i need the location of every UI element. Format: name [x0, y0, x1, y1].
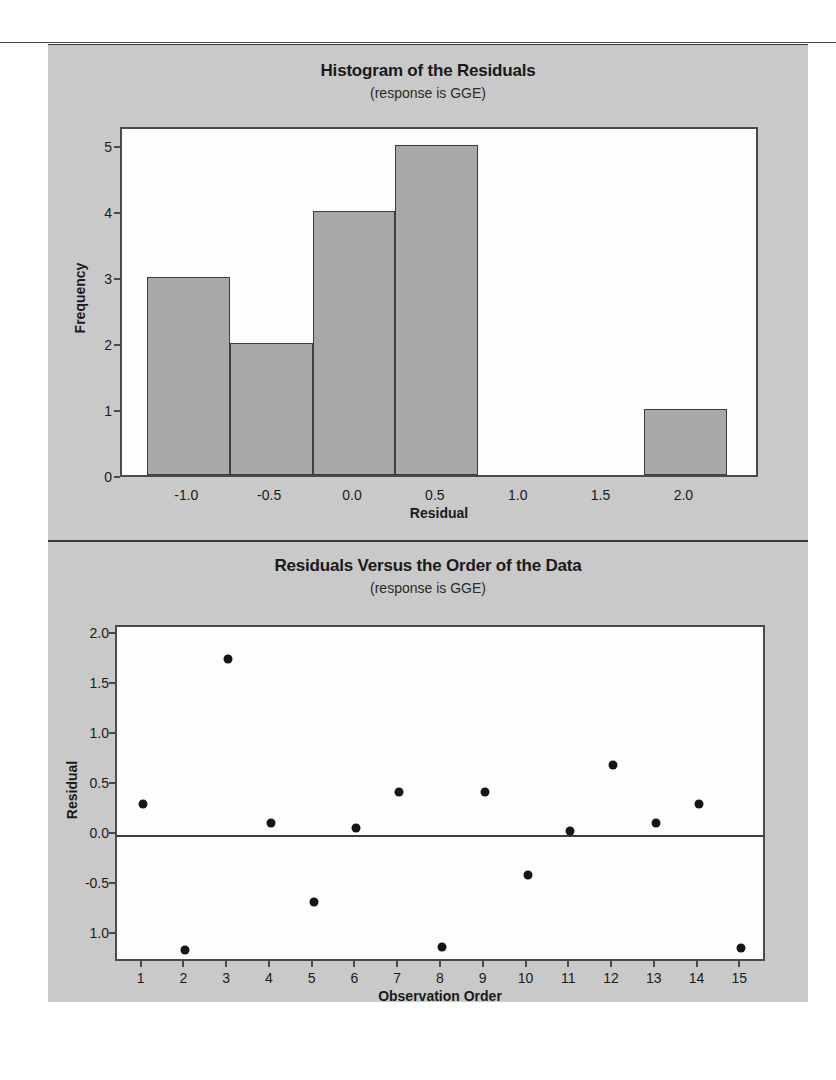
histogram-bar	[313, 211, 396, 475]
scatter-y-tick-mark	[109, 782, 115, 784]
histogram-y-tick-mark	[114, 146, 120, 148]
scatter-data-point	[694, 800, 703, 809]
scatter-x-tick-mark	[653, 961, 655, 967]
histogram-y-tick-mark	[114, 410, 120, 412]
histogram-bar	[395, 145, 478, 475]
scatter-y-tick-label: 1.0	[69, 725, 109, 741]
scatter-title: Residuals Versus the Order of the Data	[48, 556, 808, 576]
scatter-data-point	[480, 788, 489, 797]
scatter-panel: Residuals Versus the Order of the Data (…	[48, 540, 808, 1002]
scatter-x-tick-mark	[225, 961, 227, 967]
scatter-x-tick-mark	[182, 961, 184, 967]
scatter-data-point	[309, 898, 318, 907]
histogram-x-tick-label: -1.0	[174, 487, 198, 503]
scatter-x-tick-label: 4	[265, 970, 273, 986]
histogram-y-tick-mark	[114, 278, 120, 280]
scatter-data-point	[138, 800, 147, 809]
histogram-y-tick-label: 5	[86, 139, 112, 155]
scatter-x-tick-label: 12	[603, 970, 619, 986]
scatter-x-tick-mark	[567, 961, 569, 967]
histogram-x-tick-label: 1.0	[508, 487, 527, 503]
scatter-data-point	[352, 824, 361, 833]
zero-reference-line	[117, 835, 763, 837]
scatter-data-point	[737, 944, 746, 953]
histogram-x-tick-label: 0.0	[342, 487, 361, 503]
scatter-data-point	[266, 819, 275, 828]
scatter-y-tick-label: 0.5	[69, 775, 109, 791]
histogram-x-axis-label: Residual	[120, 505, 758, 521]
scatter-y-tick-label: 0.0	[69, 825, 109, 841]
histogram-subtitle: (response is GGE)	[48, 85, 808, 101]
scatter-data-point	[181, 946, 190, 955]
histogram-x-tick-label: 1.5	[591, 487, 610, 503]
scatter-data-point	[651, 819, 660, 828]
histogram-x-tick-label: 0.5	[425, 487, 444, 503]
scatter-x-tick-label: 14	[689, 970, 705, 986]
scatter-subtitle: (response is GGE)	[48, 580, 808, 596]
scatter-x-tick-label: 8	[436, 970, 444, 986]
histogram-title: Histogram of the Residuals	[48, 61, 808, 81]
histogram-bar	[230, 343, 313, 475]
scatter-x-tick-mark	[439, 961, 441, 967]
scatter-data-point	[523, 871, 532, 880]
scatter-x-axis-label: Observation Order	[115, 988, 765, 1004]
histogram-plot-area	[120, 127, 758, 477]
scatter-x-tick-mark	[268, 961, 270, 967]
histogram-y-tick-label: 0	[86, 469, 112, 485]
scatter-plot-area	[115, 625, 765, 961]
scatter-data-point	[224, 655, 233, 664]
scatter-x-tick-mark	[311, 961, 313, 967]
scatter-x-tick-label: 3	[222, 970, 230, 986]
histogram-y-tick-label: 3	[86, 271, 112, 287]
scatter-data-point	[438, 943, 447, 952]
scatter-x-tick-mark	[396, 961, 398, 967]
histogram-y-tick-label: 4	[86, 205, 112, 221]
scatter-x-tick-label: 5	[308, 970, 316, 986]
scatter-y-tick-label: 2.0	[69, 625, 109, 641]
scatter-x-tick-mark	[140, 961, 142, 967]
scatter-x-tick-label: 6	[351, 970, 359, 986]
scatter-data-point	[609, 761, 618, 770]
scatter-data-point	[395, 788, 404, 797]
histogram-y-tick-mark	[114, 212, 120, 214]
scatter-y-tick-mark	[109, 632, 115, 634]
scatter-y-tick-mark	[109, 732, 115, 734]
histogram-panel: Histogram of the Residuals (response is …	[48, 44, 808, 540]
scatter-y-tick-mark	[109, 932, 115, 934]
scatter-y-tick-label: 1.0	[69, 925, 109, 941]
scatter-x-tick-label: 2	[180, 970, 188, 986]
scatter-x-tick-label: 15	[732, 970, 748, 986]
scatter-x-tick-label: 10	[518, 970, 534, 986]
histogram-x-tick-label: -0.5	[257, 487, 281, 503]
histogram-y-tick-label: 2	[86, 337, 112, 353]
page-divider-rule	[0, 42, 836, 43]
histogram-y-axis-label: Frequency	[72, 248, 88, 348]
scatter-x-tick-mark	[610, 961, 612, 967]
scatter-x-tick-mark	[482, 961, 484, 967]
histogram-bar	[147, 277, 230, 475]
scatter-y-tick-label: -0.5	[69, 875, 109, 891]
scatter-x-tick-mark	[738, 961, 740, 967]
histogram-y-tick-mark	[114, 476, 120, 478]
scatter-x-tick-label: 11	[561, 970, 576, 986]
histogram-bar	[644, 409, 727, 475]
histogram-x-tick-label: 2.0	[674, 487, 693, 503]
scatter-x-tick-label: 13	[646, 970, 662, 986]
scatter-x-tick-label: 9	[479, 970, 487, 986]
scatter-y-tick-mark	[109, 882, 115, 884]
scatter-x-tick-mark	[696, 961, 698, 967]
scatter-x-tick-mark	[525, 961, 527, 967]
scatter-x-tick-label: 1	[137, 970, 145, 986]
scatter-y-tick-mark	[109, 832, 115, 834]
histogram-y-tick-mark	[114, 344, 120, 346]
scatter-y-tick-mark	[109, 682, 115, 684]
histogram-y-tick-label: 1	[86, 403, 112, 419]
scatter-data-point	[566, 827, 575, 836]
scatter-x-tick-label: 7	[393, 970, 401, 986]
scatter-y-tick-label: 1.5	[69, 675, 109, 691]
scatter-x-tick-mark	[353, 961, 355, 967]
